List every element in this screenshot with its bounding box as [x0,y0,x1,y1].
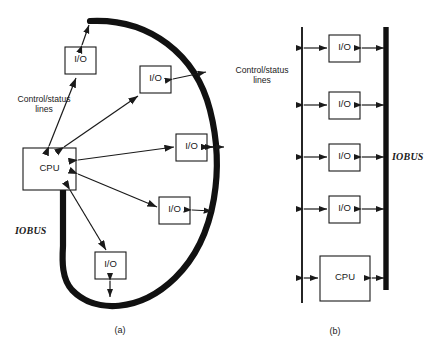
panel-b-iobus-label: IOBUS [392,151,424,162]
panel-a-io-label-lower-right: I/O [159,204,190,215]
panel-a-cpu-label: CPU [23,163,76,174]
panel-b-io-label-3: I/O [329,151,360,162]
panel-a-io-label-bottom: I/O [95,259,126,270]
panel-a-io-label-upper-right: I/O [140,73,171,84]
panel-a-io-label-top: I/O [65,54,96,65]
panel-a-io-label-middle-right: I/O [176,141,207,152]
panel-a-control-status-label-line2: lines [6,105,82,115]
io-bus-figure: I/O I/O I/O I/O I/O CPU Control/status l… [0,0,439,353]
figure-vector-canvas [0,0,439,353]
panel-a-caption: (a) [105,325,135,335]
panel-b-control-status-label-line2: lines [224,76,300,86]
panel-b-caption: (b) [320,326,350,336]
panel-b-cpu-label: CPU [320,272,370,283]
panel-b-io-label-2: I/O [329,99,360,110]
panel-a-iobus-label: IOBUS [15,225,47,236]
panel-b-io-label-4: I/O [329,203,360,214]
panel-b-io-label-1: I/O [329,42,360,53]
